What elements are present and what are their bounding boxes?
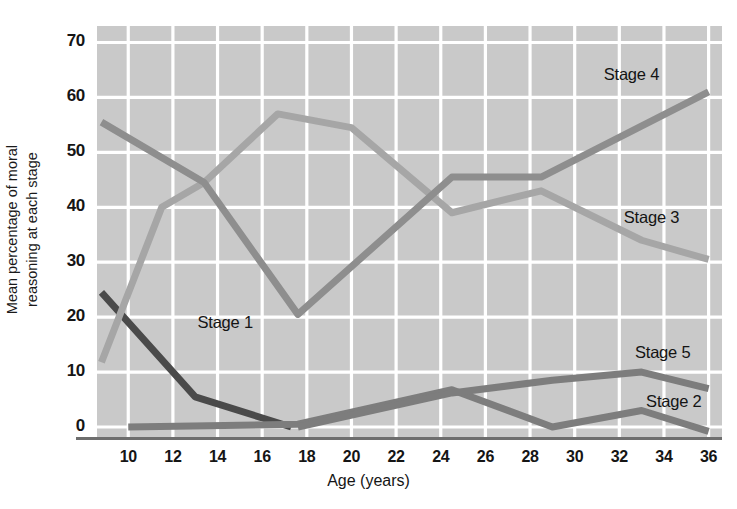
- x-tick-10: 10: [108, 448, 148, 466]
- y-tick-40: 40: [45, 196, 85, 216]
- x-tick-32: 32: [599, 448, 639, 466]
- series-label-stage-2: Stage 2: [646, 392, 701, 411]
- x-tick-28: 28: [510, 448, 550, 466]
- y-tick-30: 30: [45, 251, 85, 271]
- plot-svg: [97, 26, 722, 438]
- x-tick-36: 36: [689, 448, 729, 466]
- series-line-stage-4: [101, 92, 708, 314]
- x-tick-20: 20: [331, 448, 371, 466]
- x-tick-14: 14: [198, 448, 238, 466]
- x-tick-26: 26: [465, 448, 505, 466]
- x-tick-34: 34: [644, 448, 684, 466]
- y-axis-title-line-2: reasoning at each stage: [23, 145, 43, 314]
- plot-area: [97, 26, 722, 438]
- y-axis-title-line-1: Mean percentage of moral: [3, 145, 23, 314]
- x-tick-12: 12: [153, 448, 193, 466]
- series-line-stage-2: [128, 390, 708, 432]
- y-tick-50: 50: [45, 141, 85, 161]
- moral-reasoning-line-chart: Mean percentage of moral reasoning at ea…: [0, 0, 737, 509]
- y-axis-title: Mean percentage of moral reasoning at ea…: [0, 0, 46, 460]
- y-tick-20: 20: [45, 306, 85, 326]
- x-tick-22: 22: [376, 448, 416, 466]
- y-tick-70: 70: [45, 31, 85, 51]
- y-tick-10: 10: [45, 361, 85, 381]
- series-label-stage-5: Stage 5: [635, 343, 690, 362]
- y-tick-0: 0: [45, 416, 85, 436]
- y-tick-60: 60: [45, 86, 85, 106]
- series-label-stage-1: Stage 1: [197, 313, 252, 332]
- x-axis-title: Age (years): [0, 472, 737, 490]
- x-tick-18: 18: [287, 448, 327, 466]
- series-label-stage-4: Stage 4: [604, 65, 659, 84]
- x-axis-line: [76, 437, 722, 440]
- x-tick-30: 30: [555, 448, 595, 466]
- x-tick-16: 16: [242, 448, 282, 466]
- x-tick-24: 24: [421, 448, 461, 466]
- series-label-stage-3: Stage 3: [624, 208, 679, 227]
